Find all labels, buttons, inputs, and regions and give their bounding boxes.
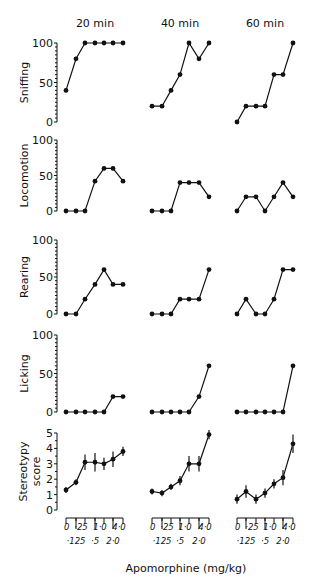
series-rearing-60min xyxy=(235,267,296,316)
data-point xyxy=(102,41,107,46)
data-point xyxy=(235,410,240,415)
x-axis-60min: 0·251·04·0·125·52·0 xyxy=(235,518,296,546)
y-tick-label: 100 xyxy=(32,329,53,342)
x-tick-label: ·25 xyxy=(160,522,174,532)
x-tick-label: 0 xyxy=(64,522,69,532)
data-point xyxy=(197,394,202,399)
data-point xyxy=(169,410,174,415)
data-point xyxy=(197,297,202,302)
series-locomotion-60min xyxy=(235,180,296,213)
y-axis-label: Rearing xyxy=(18,256,31,298)
data-point xyxy=(93,282,98,287)
data-point xyxy=(93,410,98,415)
x-tick-label: ·25 xyxy=(245,522,259,532)
y-tick-label: 0 xyxy=(46,116,53,129)
data-point xyxy=(187,461,192,466)
data-point xyxy=(74,209,79,214)
data-point xyxy=(207,267,212,272)
data-point xyxy=(64,410,69,415)
data-point xyxy=(235,120,240,125)
apomorphine-behaviour-figure: 20 min 40 min 60 min 050100Sniffing05010… xyxy=(0,0,314,583)
data-point xyxy=(64,88,69,93)
x-tick-label: 4·0 xyxy=(112,522,126,532)
x-tick-label: ·125 xyxy=(67,536,86,546)
y-tick-label: 4 xyxy=(46,442,53,455)
data-point xyxy=(197,461,202,466)
data-point xyxy=(178,410,183,415)
data-point xyxy=(263,104,268,109)
data-point xyxy=(244,410,249,415)
y-tick-label: 50 xyxy=(39,271,53,284)
y-tick-label: 50 xyxy=(39,77,53,90)
x-tick-label: 1·0 xyxy=(263,522,277,532)
data-point xyxy=(291,194,296,199)
data-point xyxy=(187,180,192,185)
data-point xyxy=(83,41,88,46)
series-line xyxy=(152,366,209,412)
series-rearing-20min xyxy=(64,267,126,316)
y-axis-label: Sniffing xyxy=(18,62,31,104)
data-point xyxy=(169,485,174,490)
data-point xyxy=(150,209,155,214)
data-point xyxy=(235,209,240,214)
data-point xyxy=(244,489,249,494)
y-axis-label: Stereotypy xyxy=(17,441,30,502)
data-point xyxy=(281,267,286,272)
data-point xyxy=(111,457,116,462)
data-point xyxy=(281,475,286,480)
data-point xyxy=(150,489,155,494)
data-point xyxy=(207,194,212,199)
x-tick-label: 4·0 xyxy=(282,522,296,532)
data-point xyxy=(272,194,277,199)
y-tick-label: 0 xyxy=(46,406,53,419)
data-point xyxy=(160,410,165,415)
data-point xyxy=(150,410,155,415)
series-locomotion-40min xyxy=(150,180,212,213)
panel-rearing: 050100Rearing xyxy=(18,234,295,321)
series-sniffing-40min xyxy=(150,41,212,109)
series-line xyxy=(237,270,293,314)
data-point xyxy=(160,209,165,214)
data-point xyxy=(74,312,79,317)
series-line xyxy=(237,366,293,412)
data-point xyxy=(150,312,155,317)
x-tick-label: ·25 xyxy=(74,522,88,532)
y-tick-label: 50 xyxy=(39,170,53,183)
data-point xyxy=(64,209,69,214)
data-point xyxy=(102,166,107,171)
x-tick-label: ·5 xyxy=(261,536,269,546)
data-point xyxy=(121,41,126,46)
data-point xyxy=(207,41,212,46)
data-point xyxy=(83,209,88,214)
data-point xyxy=(254,194,259,199)
data-point xyxy=(150,104,155,109)
data-point xyxy=(263,312,268,317)
series-line xyxy=(152,183,209,211)
y-tick-label: 0 xyxy=(46,308,53,321)
data-point xyxy=(93,179,98,184)
data-point xyxy=(93,41,98,46)
data-point xyxy=(64,312,69,317)
data-point xyxy=(178,478,183,483)
y-tick-label: 100 xyxy=(32,37,53,50)
data-point xyxy=(272,297,277,302)
y-axis-label: Locomotion xyxy=(18,143,31,207)
column-title-40min: 40 min xyxy=(161,17,199,30)
data-point xyxy=(254,104,259,109)
data-point xyxy=(291,267,296,272)
data-point xyxy=(121,282,126,287)
data-point xyxy=(74,480,79,485)
data-point xyxy=(263,410,268,415)
data-point xyxy=(160,104,165,109)
data-point xyxy=(263,491,268,496)
data-point xyxy=(207,363,212,368)
data-point xyxy=(281,410,286,415)
x-tick-label: ·125 xyxy=(153,536,172,546)
panel-licking: 050100Licking xyxy=(18,329,295,419)
y-tick-label: 5 xyxy=(46,427,53,440)
panels-group: 050100Sniffing050100Locomotion050100Rear… xyxy=(17,37,295,517)
data-point xyxy=(207,432,212,437)
data-point xyxy=(263,209,268,214)
data-point xyxy=(254,410,259,415)
column-title-60min: 60 min xyxy=(246,17,284,30)
